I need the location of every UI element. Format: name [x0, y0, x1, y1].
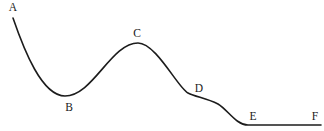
point-label-f: F	[312, 111, 318, 123]
point-label-b: B	[65, 102, 73, 114]
point-label-c: C	[133, 28, 141, 40]
point-label-e: E	[249, 111, 256, 123]
point-label-a: A	[9, 2, 17, 14]
curve-svg	[0, 0, 324, 131]
curve-diagram: A B C D E F	[0, 0, 324, 131]
curve-path	[13, 18, 321, 125]
point-label-d: D	[195, 83, 203, 95]
